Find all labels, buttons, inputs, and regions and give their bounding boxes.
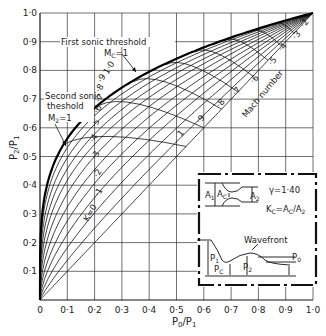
mach-curve-label: ·5 <box>266 55 279 68</box>
y-tick-label: 0·9 <box>23 37 38 47</box>
y-tick-label: 0·5 <box>23 152 37 162</box>
x-tick-label: 0·8 <box>251 305 266 315</box>
second-sonic-label: Second sonic <box>45 91 101 101</box>
x-tick-label: 1·0 <box>306 305 321 315</box>
k-curve-label: 1·0 <box>101 59 116 76</box>
x-tick-label: 0·2 <box>87 305 101 315</box>
mach-curve-label: ·6 <box>248 73 261 86</box>
k-curve-label: ·2 <box>91 167 104 179</box>
x-tick-label: 0·7 <box>224 305 238 315</box>
y-tick-label: 0·1 <box>23 266 37 276</box>
k-curve-label: K=0 <box>81 202 99 223</box>
y-tick-label: 1·0 <box>23 8 38 18</box>
gamma-label: γ=1·40 <box>269 185 300 195</box>
mach-curve-label: ·7 <box>230 85 243 98</box>
y-tick-label: 0·4 <box>23 180 38 190</box>
y-tick-label: 0·8 <box>23 65 38 75</box>
x-tick-label: 0·9 <box>279 305 294 315</box>
y-axis-title: P2/P1 <box>8 136 21 160</box>
mach-number-label: Mach number <box>240 68 286 120</box>
x-tick-label: 0·1 <box>60 305 74 315</box>
y-tick-label: 0·7 <box>23 94 37 104</box>
y-tick-label: 0·6 <box>23 123 38 133</box>
x-axis-title: P0/P1 <box>172 316 196 329</box>
wavefront-label: Wavefront <box>244 235 288 245</box>
chart-canvas: 00·10·20·30·40·50·60·70·80·91·00·10·20·3… <box>0 0 326 336</box>
y-tick-label: 0·2 <box>23 238 37 248</box>
x-tick-label: 0·6 <box>197 305 212 315</box>
first-sonic-label: First sonic threshold <box>61 37 146 47</box>
threshold-label: theshold <box>47 101 84 111</box>
m2-equals-1-label: M2=1 <box>48 113 72 124</box>
y-tick-label: 0·3 <box>23 209 37 219</box>
x-tick-label: 0·4 <box>142 305 157 315</box>
k-curve-label: ·4 <box>87 132 100 144</box>
inset-diagram: A1 AC A2 γ=1·40 KC=AC/A2 Wavefront P1 PC… <box>197 172 317 287</box>
x-tick-label: 0 <box>37 305 43 315</box>
x-tick-label: 0·5 <box>169 305 183 315</box>
x-tick-label: 0·3 <box>115 305 129 315</box>
mach-curve-label: ·8 <box>214 97 227 110</box>
